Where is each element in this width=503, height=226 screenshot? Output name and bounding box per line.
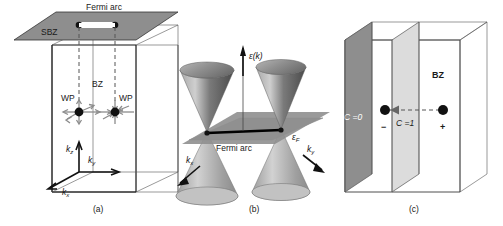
weyl-dot-negative <box>380 105 390 115</box>
caption-c: (c) <box>409 204 419 214</box>
label-chern-zero: C =0 <box>344 112 362 122</box>
label-chern-one: C =1 <box>396 118 414 128</box>
weyl-dot-positive <box>438 105 448 115</box>
label-bz-c: BZ <box>432 70 444 80</box>
label-charge-positive: + <box>440 122 445 132</box>
weyl-semimetal-figure: SBZ Fermi arc BZ <box>0 0 503 226</box>
panel-c: C =0 C =1 BZ − + (c) <box>0 0 503 226</box>
chern-plane-c0 <box>345 22 372 192</box>
label-charge-negative: − <box>381 122 386 132</box>
